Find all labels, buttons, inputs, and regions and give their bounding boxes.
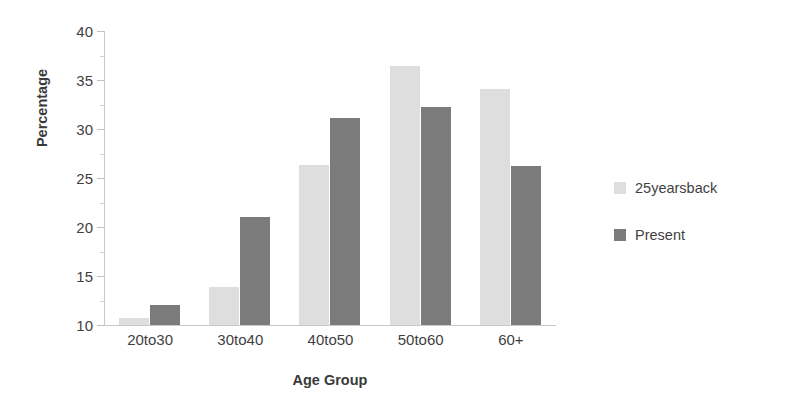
y-tick-label: 30 [76,121,93,138]
x-tick-label: 20to30 [105,331,195,348]
y-tick-mark [97,227,104,228]
y-tick-minor-mark [100,203,104,204]
bar-group: 30to40 [195,31,285,325]
y-axis-title: Percentage [34,28,50,188]
y-tick-label: 20 [76,219,93,236]
y-tick-label: 10 [76,317,93,334]
x-axis-title: Age Group [100,372,560,388]
y-tick-minor-mark [100,252,104,253]
legend-entry: 25yearsback [614,180,774,196]
y-tick-mark [97,80,104,81]
bar-30to40-25yearsback [209,287,239,325]
y-tick-mark [97,276,104,277]
bar-40to50-25yearsback [299,165,329,325]
bar-20to30-Present [150,305,180,325]
y-tick-minor-mark [100,301,104,302]
legend-label: Present [635,227,685,243]
y-tick-minor-mark [100,56,104,57]
bar-50to60-25yearsback [390,66,420,325]
bar-group: 40to50 [285,31,375,325]
bar-group: 50to60 [376,31,466,325]
y-tick-mark [97,325,104,326]
bar-30to40-Present [240,217,270,325]
x-tick-label: 50to60 [376,331,466,348]
legend-entry: Present [614,227,774,243]
bar-60+-Present [511,166,541,325]
x-tick-label: 30to40 [195,331,285,348]
x-tick-label: 40to50 [285,331,375,348]
bar-groups: 20to3030to4040to5050to6060+ [105,31,556,325]
legend-label: 25yearsback [635,180,717,196]
bar-group: 20to30 [105,31,195,325]
y-tick-minor-mark [100,154,104,155]
legend-swatch-icon [614,182,626,194]
x-axis-line [104,325,556,326]
bar-50to60-Present [421,107,451,325]
bar-40to50-Present [330,118,360,325]
x-tick-label: 60+ [466,331,556,348]
chart-legend: 25yearsbackPresent [614,180,774,274]
y-tick-mark [97,178,104,179]
y-tick-label: 25 [76,170,93,187]
y-tick-mark [97,31,104,32]
y-tick-label: 35 [76,72,93,89]
y-tick-label: 15 [76,268,93,285]
bar-60+-25yearsback [480,89,510,325]
y-tick-label: 40 [76,23,93,40]
plot-area: 10152025303540 20to3030to4040to5050to606… [104,31,556,325]
legend-swatch-icon [614,229,626,241]
bar-chart: Percentage 10152025303540 20to3030to4040… [0,0,786,417]
y-tick-minor-mark [100,105,104,106]
bar-20to30-25yearsback [119,318,149,325]
bar-group: 60+ [466,31,556,325]
y-tick-mark [97,129,104,130]
